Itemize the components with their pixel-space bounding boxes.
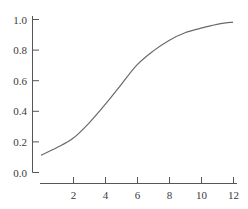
y-tick-label: 1.0 xyxy=(13,14,27,26)
plot-area xyxy=(41,22,233,155)
y-tick-label: 0.2 xyxy=(13,136,27,148)
y-tick-label: 0.0 xyxy=(13,167,27,179)
y-axis: 0.00.20.40.60.81.0 xyxy=(13,14,39,179)
x-tick-label: 8 xyxy=(167,189,173,201)
x-axis: 24681012 xyxy=(40,177,239,201)
y-tick-label: 0.8 xyxy=(13,44,27,56)
y-ticks: 0.00.20.40.60.81.0 xyxy=(13,14,39,179)
x-ticks: 24681012 xyxy=(71,177,239,201)
y-tick-label: 0.6 xyxy=(13,75,27,87)
x-tick-label: 4 xyxy=(103,189,109,201)
x-tick-label: 12 xyxy=(228,189,239,201)
line-chart: 0.00.20.40.60.81.0 24681012 xyxy=(0,0,248,209)
x-tick-label: 6 xyxy=(135,189,141,201)
x-tick-label: 2 xyxy=(71,189,77,201)
data-curve xyxy=(41,22,233,155)
y-tick-label: 0.4 xyxy=(13,105,27,117)
x-tick-label: 10 xyxy=(196,189,208,201)
